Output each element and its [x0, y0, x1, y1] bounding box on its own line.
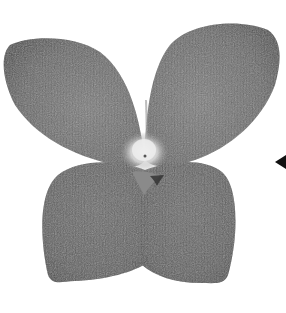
flower-photo: Grayscale photograph of a four-petaled f… [0, 0, 286, 313]
